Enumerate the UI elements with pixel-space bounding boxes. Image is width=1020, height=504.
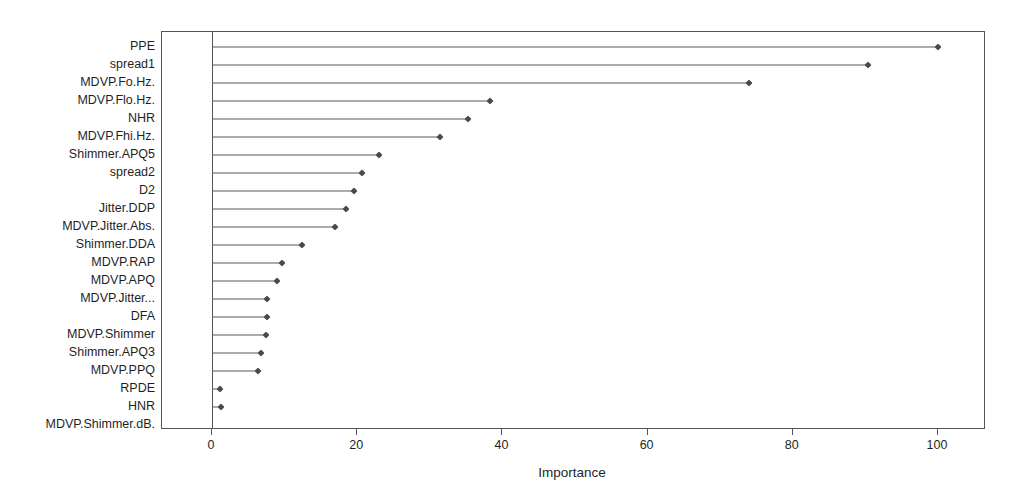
y-axis-category-labels: PPEspread1MDVP.Fo.Hz.MDVP.Flo.Hz.NHRMDVP…: [0, 31, 155, 429]
zero-baseline: [212, 32, 213, 428]
data-point-marker: [487, 97, 494, 104]
data-point-marker: [216, 385, 223, 392]
y-axis-tick-label: MDVP.Fhi.Hz.: [0, 130, 155, 143]
data-point-marker: [359, 169, 366, 176]
data-point-marker: [375, 151, 382, 158]
lollipop-line: [212, 263, 282, 264]
lollipop-line: [212, 317, 267, 318]
data-point-marker: [278, 259, 285, 266]
x-axis-tick-mark: [937, 429, 938, 435]
data-point-marker: [257, 349, 264, 356]
y-axis-tick-label: MDVP.PPQ: [0, 364, 155, 377]
data-point-marker: [262, 331, 269, 338]
x-axis-tick-mark: [647, 429, 648, 435]
data-point-marker: [254, 367, 261, 374]
data-point-marker: [343, 205, 350, 212]
lollipop-line: [212, 281, 277, 282]
y-axis-tick-label: Jitter.DDP: [0, 202, 155, 215]
lollipop-line: [212, 209, 346, 210]
data-point-marker: [264, 295, 271, 302]
lollipop-line: [212, 137, 440, 138]
plot-panel: [161, 31, 985, 429]
y-axis-tick-label: HNR: [0, 400, 155, 413]
x-axis-tick-label: 0: [208, 438, 215, 452]
x-axis-tick-label: 20: [349, 438, 363, 452]
y-axis-tick-label: NHR: [0, 112, 155, 125]
y-axis-tick-label: D2: [0, 184, 155, 197]
data-point-marker: [298, 241, 305, 248]
y-axis-tick-label: Shimmer.APQ3: [0, 346, 155, 359]
x-axis-tick-mark: [501, 429, 502, 435]
data-point-marker: [264, 313, 271, 320]
importance-dotplot-figure: PPEspread1MDVP.Fo.Hz.MDVP.Flo.Hz.NHRMDVP…: [0, 0, 1020, 504]
data-point-marker: [746, 79, 753, 86]
y-axis-tick-label: MDVP.Fo.Hz.: [0, 76, 155, 89]
y-axis-tick-label: Shimmer.DDA: [0, 238, 155, 251]
y-axis-tick-label: MDVP.Jitter...: [0, 292, 155, 305]
lollipop-line: [212, 119, 468, 120]
data-point-marker: [865, 61, 872, 68]
y-axis-tick-label: MDVP.Flo.Hz.: [0, 94, 155, 107]
data-point-marker: [436, 133, 443, 140]
lollipop-line: [212, 353, 261, 354]
x-axis: 020406080100 Importance: [0, 429, 1020, 504]
data-point-marker: [274, 277, 281, 284]
y-axis-tick-label: MDVP.Shimmer: [0, 328, 155, 341]
lollipop-line: [212, 299, 267, 300]
lollipop-line: [212, 227, 335, 228]
lollipop-line: [212, 83, 749, 84]
data-point-marker: [934, 43, 941, 50]
lollipop-line: [212, 173, 362, 174]
x-axis-title-label: Importance: [538, 465, 606, 480]
data-point-marker: [217, 403, 224, 410]
lollipop-line: [212, 191, 354, 192]
x-axis-tick-label: 80: [785, 438, 799, 452]
y-axis-tick-label: RPDE: [0, 382, 155, 395]
x-axis-tick-mark: [211, 429, 212, 435]
lollipop-line: [212, 371, 258, 372]
x-axis-tick-mark: [792, 429, 793, 435]
y-axis-tick-label: PPE: [0, 40, 155, 53]
lollipop-line: [212, 155, 379, 156]
lollipop-line: [212, 47, 938, 48]
data-point-marker: [465, 115, 472, 122]
lollipop-line: [212, 101, 490, 102]
y-axis-tick-label: Shimmer.APQ5: [0, 148, 155, 161]
y-axis-tick-label: MDVP.APQ: [0, 274, 155, 287]
lollipop-line: [212, 245, 302, 246]
x-axis-tick-label: 60: [640, 438, 654, 452]
lollipop-line: [212, 335, 266, 336]
y-axis-tick-label: MDVP.RAP: [0, 256, 155, 269]
data-point-marker: [332, 223, 339, 230]
x-axis-tick-label: 100: [927, 438, 948, 452]
y-axis-tick-label: spread1: [0, 58, 155, 71]
data-point-marker: [351, 187, 358, 194]
x-axis-title: Importance: [0, 465, 1020, 480]
y-axis-tick-label: spread2: [0, 166, 155, 179]
y-axis-tick-label: MDVP.Jitter.Abs.: [0, 220, 155, 233]
lollipop-line: [212, 65, 868, 66]
x-axis-tick-mark: [356, 429, 357, 435]
x-axis-tick-label: 40: [494, 438, 508, 452]
y-axis-tick-label: DFA: [0, 310, 155, 323]
